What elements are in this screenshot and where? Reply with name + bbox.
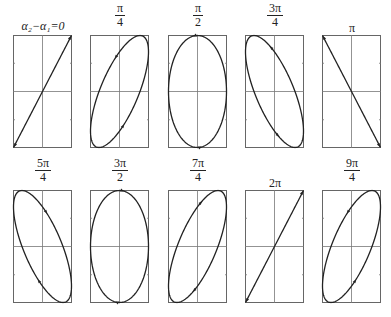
oscilloscope-plot <box>245 35 304 148</box>
direction-arrow-icon <box>120 188 124 191</box>
phase-label: 3π2 <box>90 157 150 184</box>
direction-arrow-icon <box>115 302 119 305</box>
direction-arrow-icon <box>198 147 202 150</box>
phase-label: 3π4 <box>245 2 305 29</box>
phase-label: π2 <box>168 2 228 29</box>
oscilloscope-plot <box>90 35 149 148</box>
phase-label: 5π4 <box>13 157 73 184</box>
phase-label: π <box>322 22 382 35</box>
phase-label: 7π4 <box>168 157 228 184</box>
oscilloscope-plot <box>13 35 72 148</box>
direction-arrow-icon <box>193 33 197 36</box>
phase-label: 9π4 <box>322 157 382 184</box>
oscilloscope-plot <box>168 190 227 303</box>
oscilloscope-plot <box>322 35 381 148</box>
oscilloscope-plot <box>168 35 227 148</box>
oscilloscope-plot <box>13 190 72 303</box>
phase-label: α₂−α₁=0 <box>7 20 79 33</box>
oscilloscope-plot <box>322 190 381 303</box>
phase-label: 2π <box>245 177 305 190</box>
oscilloscope-plot <box>90 190 149 303</box>
phase-label: π4 <box>90 2 150 29</box>
oscilloscope-plot <box>245 190 304 303</box>
